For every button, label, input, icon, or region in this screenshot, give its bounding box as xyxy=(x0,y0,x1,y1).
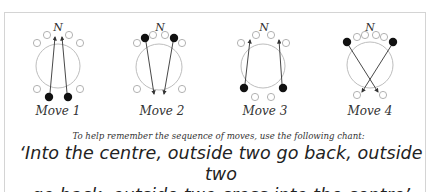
move-2-label: Move 2 xyxy=(122,104,202,118)
chant-text: ‘Into the centre, outside two go back, o… xyxy=(12,143,430,192)
move-4-diagram: N xyxy=(343,21,397,99)
move-4-label: Move 4 xyxy=(330,104,410,118)
move-3-diagram: N xyxy=(237,21,289,101)
filled-position-icons xyxy=(45,93,72,101)
svg-text:N: N xyxy=(258,21,269,34)
move-1-label: Move 1 xyxy=(18,104,98,118)
chant-line-1: ‘Into the centre, outside two go back, o… xyxy=(12,143,430,185)
move-1-diagram: N xyxy=(33,21,83,101)
north-label: N xyxy=(52,21,63,34)
empty-position-icons xyxy=(33,31,83,92)
chant-line-2: go back, outside two cross into the cent… xyxy=(12,185,430,192)
centre-circle xyxy=(36,44,80,88)
move-2-diagram: N xyxy=(133,21,185,94)
hint-text: To help remember the sequence of moves, … xyxy=(0,131,437,141)
move-3-label: Move 3 xyxy=(225,104,305,118)
